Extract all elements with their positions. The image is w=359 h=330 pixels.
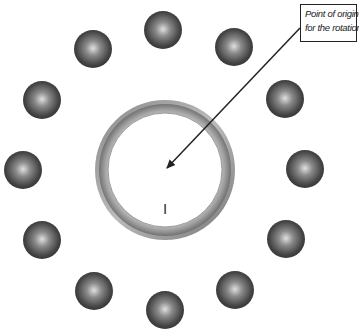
ball-11 [23,81,61,119]
callout-line-2: for the rotation [305,21,356,35]
callout-line-1: Point of origin [305,7,356,21]
ball-1 [144,11,182,49]
ball-2 [215,28,253,66]
ball-10 [4,151,42,189]
ball-5 [267,220,305,258]
center-ring [95,100,235,240]
rotation-diagram [0,0,359,330]
ball-4 [286,150,324,188]
ball-3 [266,80,304,118]
ball-9 [23,221,61,259]
ball-7 [146,291,184,329]
origin-callout-box: Point of origin for the rotation [300,4,357,42]
center-label: I [160,200,170,217]
ball-6 [216,271,254,309]
ball-8 [75,272,113,310]
ball-12 [74,30,112,68]
